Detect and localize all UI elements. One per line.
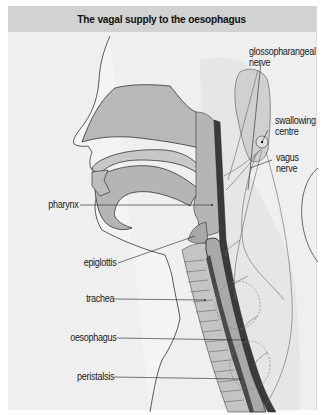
label-pharynx: pharynx: [48, 199, 78, 210]
tongue: [95, 166, 200, 230]
epiglottis-shape: [188, 222, 208, 243]
label-peristalsis: peristalsis: [77, 371, 114, 382]
label-glossopharangeal-nerve: glossopharangeal nerve: [249, 46, 316, 68]
label-swallowing-centre: swallowing centre: [275, 115, 316, 137]
label-trachea: trachea: [86, 293, 114, 304]
label-oesophagus: oesophagus: [70, 332, 116, 343]
label-vagus-nerve: vagus nerve: [276, 152, 299, 174]
shoulder-curve: [302, 168, 318, 262]
label-epiglottis: epiglottis: [83, 257, 116, 268]
